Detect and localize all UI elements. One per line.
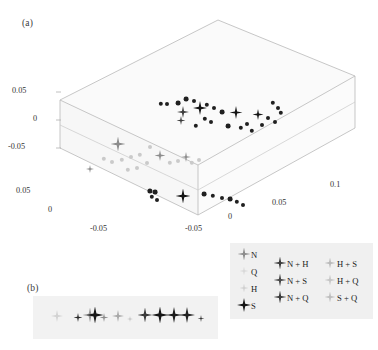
data-point xyxy=(176,159,180,163)
legend-star-icon xyxy=(272,257,287,272)
legend-label: S + Q xyxy=(337,294,357,303)
data-point xyxy=(190,161,194,165)
legend-star-icon xyxy=(236,248,251,263)
legend: NQHSN + HN + SN + QH + SH + QS + Q xyxy=(230,243,373,319)
legend-entry: N + Q xyxy=(272,289,309,307)
legend-label: H xyxy=(251,285,257,294)
data-point xyxy=(245,122,249,126)
legend-entry: N + H xyxy=(272,255,309,273)
data-point xyxy=(165,102,169,106)
data-point xyxy=(220,196,224,200)
legend-star-icon xyxy=(236,299,251,314)
legend-entry: H + S xyxy=(322,255,357,273)
star-marker xyxy=(83,308,98,327)
legend-star-icon xyxy=(236,282,251,297)
data-point xyxy=(102,157,106,161)
data-point xyxy=(110,160,114,164)
star-marker xyxy=(198,308,205,326)
data-point xyxy=(155,198,159,202)
panel-b-label: (b) xyxy=(27,283,39,293)
data-point xyxy=(135,166,139,170)
star-marker-s xyxy=(176,189,191,208)
data-point xyxy=(212,106,216,110)
data-point xyxy=(153,190,158,195)
star-marker xyxy=(138,308,153,327)
legend-label: S xyxy=(251,302,256,311)
legend-label: Q xyxy=(251,268,257,277)
legend-entry: S + Q xyxy=(322,289,357,307)
legend-label: N + Q xyxy=(287,294,309,303)
data-point xyxy=(202,192,207,197)
star-marker xyxy=(152,307,169,328)
star-marker xyxy=(127,308,133,326)
panel-b-markers xyxy=(33,296,218,339)
data-point xyxy=(205,103,209,107)
data-point xyxy=(194,124,198,128)
data-point xyxy=(129,155,133,159)
data-point xyxy=(197,158,201,162)
legend-label: N + H xyxy=(287,260,309,269)
data-point xyxy=(203,117,207,121)
data-point xyxy=(168,161,172,165)
star-marker-n-h xyxy=(177,111,186,129)
star-marker xyxy=(112,308,124,326)
star-marker xyxy=(179,307,195,327)
legend-entry: S xyxy=(236,297,256,315)
data-point xyxy=(126,168,130,172)
data-point xyxy=(209,120,213,124)
scatter-markers-3d xyxy=(0,0,378,250)
data-point xyxy=(145,161,149,165)
data-point xyxy=(271,101,275,105)
panel-b xyxy=(33,296,218,339)
legend-star-icon xyxy=(322,274,337,289)
legend-entry: H xyxy=(236,280,257,298)
data-point xyxy=(276,106,280,110)
data-point xyxy=(192,99,196,103)
data-point xyxy=(273,120,277,124)
data-point xyxy=(266,116,270,120)
legend-label: N xyxy=(251,251,257,260)
legend-label: H + Q xyxy=(337,277,359,286)
panel-a: (a) xyxy=(0,0,378,250)
data-point xyxy=(235,200,239,204)
data-point xyxy=(260,123,264,127)
data-point xyxy=(226,124,231,129)
data-point xyxy=(279,111,283,115)
legend-star-icon xyxy=(236,265,251,280)
star-marker-n-h xyxy=(177,104,189,122)
legend-label: N + S xyxy=(287,277,307,286)
star-marker-s xyxy=(230,105,243,123)
star-marker xyxy=(166,307,182,327)
figure-root: (a) xyxy=(0,0,378,350)
star-marker-n xyxy=(111,137,126,156)
data-point xyxy=(150,195,154,199)
data-point xyxy=(148,145,152,149)
star-marker-n xyxy=(86,159,94,177)
data-point xyxy=(159,102,163,106)
legend-entry: H + Q xyxy=(322,272,359,290)
data-point xyxy=(176,101,181,106)
legend-entry: Q xyxy=(236,263,257,281)
data-point xyxy=(138,153,142,157)
legend-entry: N + S xyxy=(272,272,307,290)
legend-entry: N xyxy=(236,246,257,264)
legend-star-icon xyxy=(272,274,287,289)
data-point xyxy=(184,97,189,102)
star-marker xyxy=(87,307,104,328)
data-point xyxy=(241,203,245,207)
data-point xyxy=(228,197,233,202)
star-marker xyxy=(100,308,109,326)
data-point xyxy=(211,194,215,198)
star-marker xyxy=(74,308,83,326)
data-point xyxy=(220,110,225,115)
legend-star-icon xyxy=(272,291,287,306)
star-marker-s xyxy=(253,106,264,124)
star-marker xyxy=(51,308,63,326)
legend-star-icon xyxy=(322,257,337,272)
data-point xyxy=(120,158,124,162)
data-point xyxy=(239,126,243,130)
legend-label: H + S xyxy=(337,260,357,269)
data-point xyxy=(250,129,254,133)
legend-star-icon xyxy=(322,291,337,306)
star-marker-n xyxy=(155,147,166,165)
